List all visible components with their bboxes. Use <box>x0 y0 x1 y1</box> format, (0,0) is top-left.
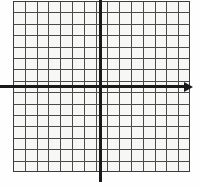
horizontal-axis-line <box>0 85 184 88</box>
horizontal-axis-arrow-icon <box>184 82 193 92</box>
vertical-axis-line <box>99 0 102 182</box>
coordinate-grid-figure <box>0 0 201 188</box>
